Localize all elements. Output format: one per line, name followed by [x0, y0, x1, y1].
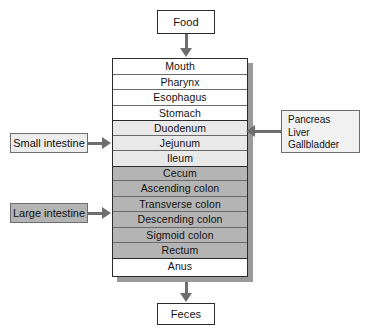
tract-row: Stomach [113, 106, 247, 122]
digestive-tract-column: Mouth Pharynx Esophagus Stomach Duodenum… [112, 58, 248, 277]
tract-row: Esophagus [113, 90, 247, 106]
small-intestine-arrow-icon [102, 137, 111, 149]
food-arrow-icon [180, 48, 192, 57]
tract-row: Ileum [113, 151, 247, 167]
tract-row: Cecum [113, 166, 247, 182]
tract-row: Pharynx [113, 75, 247, 91]
accessory-organ-item: Gallbladder [288, 139, 359, 152]
tract-row: Transverse colon [113, 197, 247, 213]
food-to-mouth-connector [185, 34, 188, 49]
accessory-organs-box: Pancreas Liver Gallbladder [281, 110, 360, 153]
tract-row: Ascending colon [113, 181, 247, 197]
feces-box: Feces [157, 303, 215, 325]
accessory-organ-item: Liver [288, 127, 359, 140]
tract-row: Anus [113, 258, 247, 274]
food-box: Food [157, 10, 215, 34]
digestive-tract-diagram: Food Mouth Pharynx Esophagus Stomach Duo… [0, 0, 366, 331]
large-intestine-label: Large intestine [10, 203, 88, 223]
small-intestine-connector [88, 142, 103, 145]
large-intestine-connector [88, 212, 103, 215]
tract-row: Jejunum [113, 136, 247, 152]
accessory-organs-arrow-icon [246, 125, 255, 137]
tract-row: Sigmoid colon [113, 228, 247, 244]
large-intestine-arrow-icon [102, 207, 111, 219]
tract-row: Descending colon [113, 212, 247, 228]
tract-row: Duodenum [113, 120, 247, 136]
feces-arrow-icon [180, 293, 192, 302]
accessory-organs-connector [255, 130, 281, 133]
small-intestine-label: Small intestine [10, 133, 88, 153]
accessory-organ-item: Pancreas [288, 114, 359, 127]
tract-row: Mouth [113, 59, 247, 75]
tract-row: Rectum [113, 243, 247, 259]
